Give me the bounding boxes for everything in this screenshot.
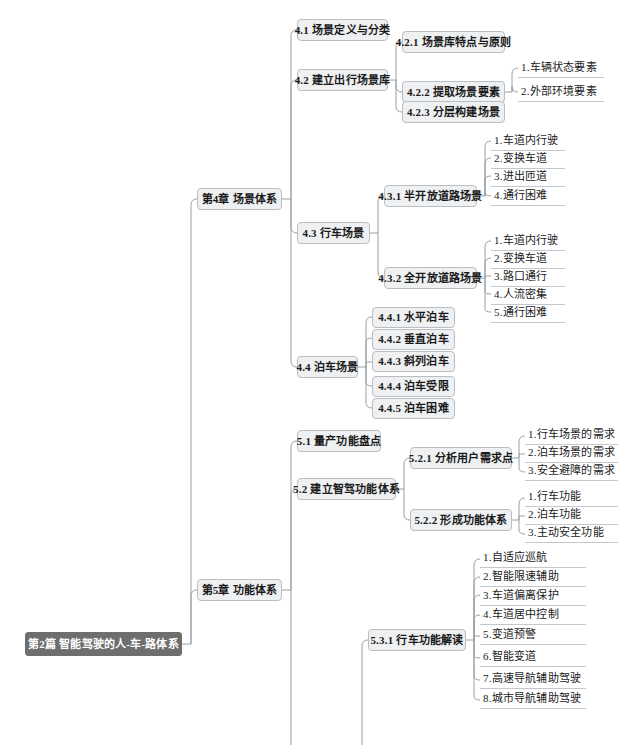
node-section-5-3-1[interactable]: 5.3.1 行车功能解读 (368, 629, 466, 651)
leaf-5-2-1-3[interactable]: 3.安全避障的需求 (525, 462, 618, 481)
node-section-4-2-2[interactable]: 4.2.2 提取场景要素 (402, 81, 505, 103)
node-section-4-4-2[interactable]: 4.4.2 垂直泊车 (372, 329, 455, 350)
leaf-5-3-1-3[interactable]: 3.车道偏离保护 (480, 587, 586, 606)
leaf-4-3-2-5[interactable]: 5.通行困难 (491, 303, 565, 323)
leaf-4-2-2-2[interactable]: 2.外部环境要素 (518, 82, 604, 102)
node-section-4-4-5[interactable]: 4.4.5 泊车困难 (372, 398, 455, 419)
leaf-5-3-1-6[interactable]: 6.智能变道 (480, 648, 586, 667)
leaf-5-2-1-2[interactable]: 2.泊车场景的需求 (525, 444, 618, 463)
leaf-5-3-1-5[interactable]: 5.变道预警 (480, 626, 586, 645)
node-section-4-3[interactable]: 4.3 行车场景 (297, 222, 370, 244)
node-section-4-4-1[interactable]: 4.4.1 水平泊车 (372, 307, 455, 328)
node-section-4-4-3[interactable]: 4.4.3 斜列泊车 (372, 351, 455, 372)
leaf-5-2-2-1[interactable]: 1.行车功能 (525, 488, 618, 507)
leaf-5-2-2-3[interactable]: 3.主动安全功能 (525, 524, 618, 543)
leaf-5-3-1-7[interactable]: 7.高速导航辅助驾驶 (480, 670, 586, 689)
mindmap-canvas: 第2篇 智能驾驶的人-车-路体系 第4章 场景体系 第5章 功能体系 4.1 场… (0, 0, 638, 752)
node-section-5-1[interactable]: 5.1 量产功能盘点 (297, 430, 381, 452)
node-section-4-4-4[interactable]: 4.4.4 泊车受限 (372, 376, 455, 397)
node-section-4-3-2[interactable]: 4.3.2 全开放道路场景 (384, 267, 477, 289)
node-section-4-1[interactable]: 4.1 场景定义与分类 (297, 19, 388, 41)
leaf-4-3-1-3[interactable]: 3.进出匝道 (491, 167, 565, 187)
leaf-5-2-1-1[interactable]: 1.行车场景的需求 (525, 426, 618, 445)
node-section-4-2-1[interactable]: 4.2.1 场景库特点与原则 (402, 31, 505, 53)
leaf-4-3-1-4[interactable]: 4.通行困难 (491, 186, 565, 206)
node-chapter-5[interactable]: 第5章 功能体系 (197, 579, 282, 601)
leaf-5-3-1-4[interactable]: 4.车道居中控制 (480, 606, 586, 625)
leaf-4-3-1-1[interactable]: 1.车道内行驶 (491, 131, 565, 151)
leaf-5-2-2-2[interactable]: 2.泊车功能 (525, 506, 618, 525)
node-section-5-2-2[interactable]: 5.2.2 形成功能体系 (410, 509, 512, 531)
leaf-4-3-2-2[interactable]: 2.变换车道 (491, 249, 565, 269)
leaf-5-3-1-2[interactable]: 2.智能限速辅助 (480, 568, 586, 587)
node-section-4-2[interactable]: 4.2 建立出行场景库 (297, 69, 388, 91)
node-section-4-2-3[interactable]: 4.2.3 分层构建场景 (402, 101, 505, 123)
leaf-4-2-2-1[interactable]: 1.车辆状态要素 (518, 58, 604, 78)
node-section-5-2-1[interactable]: 5.2.1 分析用户需求点 (410, 447, 512, 469)
leaf-4-3-1-2[interactable]: 2.变换车道 (491, 149, 565, 169)
node-chapter-4[interactable]: 第4章 场景体系 (197, 188, 282, 210)
leaf-4-3-2-3[interactable]: 3.路口通行 (491, 267, 565, 287)
node-section-5-2[interactable]: 5.2 建立智驾功能体系 (297, 478, 396, 500)
node-section-4-3-1[interactable]: 4.3.1 半开放道路场景 (384, 185, 477, 207)
node-section-4-4[interactable]: 4.4 泊车场景 (297, 356, 358, 378)
root-node[interactable]: 第2篇 智能驾驶的人-车-路体系 (25, 632, 182, 656)
leaf-4-3-2-4[interactable]: 4.人流密集 (491, 285, 565, 305)
leaf-4-3-2-1[interactable]: 1.车道内行驶 (491, 231, 565, 251)
leaf-5-3-1-1[interactable]: 1.自适应巡航 (480, 549, 586, 568)
leaf-5-3-1-8[interactable]: 8.城市导航辅助驾驶 (480, 690, 586, 709)
